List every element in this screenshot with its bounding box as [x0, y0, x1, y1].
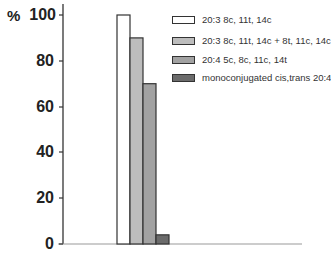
legend-swatch-dark-gray — [172, 74, 195, 82]
legend-label: 20:4 5c, 8c, 11c, 14t — [202, 54, 287, 65]
legend-swatch-white — [172, 16, 195, 24]
legend-label: monoconjugated cis,trans 20:4 — [202, 72, 331, 83]
y-tick-label-80: 80 — [14, 52, 54, 70]
bar — [156, 235, 169, 244]
y-tick-label-60: 60 — [14, 98, 54, 116]
legend-label: 20:3 8c, 11t, 14c — [202, 14, 272, 25]
bar — [143, 84, 156, 244]
bars-group — [117, 15, 169, 244]
bar — [117, 15, 130, 244]
y-tick-label-40: 40 — [14, 143, 54, 161]
legend-label: 20:3 8c, 11t, 14c + 8t, 11c, 14c — [202, 35, 331, 46]
y-tick-label-20: 20 — [14, 189, 54, 207]
bar — [130, 38, 143, 244]
legend-swatch-mid-gray — [172, 56, 195, 64]
y-tick-label-100: 100 — [16, 6, 56, 24]
legend-swatch-light-gray — [172, 37, 195, 45]
y-tick-label-0: 0 — [14, 235, 54, 253]
